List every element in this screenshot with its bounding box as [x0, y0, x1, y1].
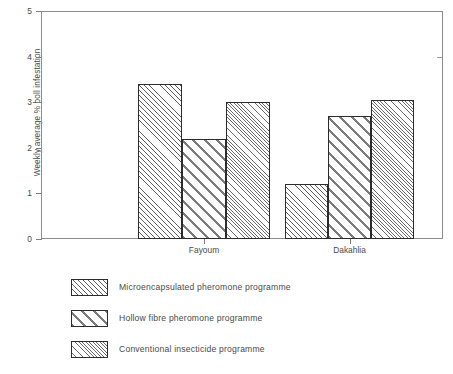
legend-swatch-hollow-fibre	[71, 310, 108, 327]
x-tick-mark-fayoum	[204, 239, 205, 244]
legend-swatch-microencapsulated	[71, 279, 108, 296]
y-tick-label-4: 4	[14, 51, 32, 61]
bar-fayoum-hollow-fibre	[182, 139, 226, 239]
y-tick-mark-0	[36, 239, 42, 240]
bar-fayoum-conventional	[226, 102, 270, 239]
bar-fayoum-microencapsulated	[138, 84, 182, 239]
y-tick-label-3: 3	[14, 97, 32, 107]
bar-dakahlia-microencapsulated	[285, 184, 328, 239]
x-tick-label-dakahlia: Dakahlia	[333, 245, 366, 255]
x-tick-label-fayoum: Fayoum	[189, 245, 219, 255]
bar-dakahlia-conventional	[371, 100, 414, 239]
bar-chart-figure: Weekly average % boll infestation 0 1 2 …	[0, 0, 453, 374]
bar-dakahlia-hollow-fibre	[328, 116, 371, 239]
x-tick-mark-dakahlia	[350, 239, 351, 244]
y-tick-label-5: 5	[14, 6, 32, 16]
legend-label-microencapsulated: Microencapsulated pheromone programme	[119, 282, 291, 292]
y-tick-label-2: 2	[14, 142, 32, 152]
y-tick-label-1: 1	[14, 188, 32, 198]
legend-label-hollow-fibre: Hollow fibre pheromone programme	[119, 313, 263, 323]
legend-label-conventional: Conventional insecticide programme	[119, 344, 265, 354]
y-tick-label-0: 0	[14, 234, 32, 244]
legend-swatch-conventional	[71, 341, 108, 358]
